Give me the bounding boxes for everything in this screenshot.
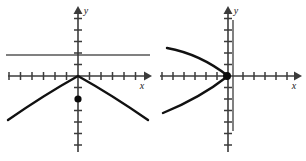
right-panel: x y bbox=[160, 5, 302, 152]
left-y-axis-label: y bbox=[83, 5, 89, 16]
right-parabola-curve bbox=[163, 48, 228, 113]
left-x-axis-arrow bbox=[144, 72, 152, 81]
left-focus-point bbox=[74, 95, 81, 102]
left-panel: x y bbox=[6, 5, 152, 152]
right-y-axis-label: y bbox=[233, 5, 239, 16]
right-focus-point bbox=[223, 72, 231, 80]
parabola-figure: x y bbox=[0, 0, 306, 161]
right-y-axis-arrow bbox=[224, 6, 233, 14]
figure-canvas: x y bbox=[0, 0, 306, 161]
right-x-axis-label: x bbox=[291, 80, 297, 91]
left-x-axis-label: x bbox=[139, 80, 145, 91]
left-y-axis-arrow bbox=[74, 6, 83, 14]
